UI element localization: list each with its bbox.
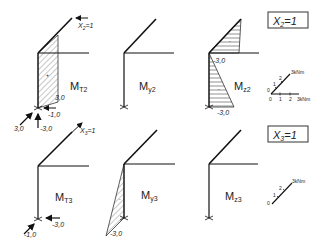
svg-text:1: 1 [279, 96, 282, 102]
moment-value: -3,0 [213, 57, 225, 64]
svg-text:1: 1 [273, 81, 276, 87]
applied-load-label: X2=1 [77, 22, 94, 31]
load-case-label: X2=1 [272, 15, 297, 28]
load-case-box-X3: X3=1 [268, 126, 308, 142]
svg-text:0: 0 [267, 200, 270, 206]
scale-legend-2: 3kNm 0 1 2 [267, 178, 305, 206]
load-case-label: X3=1 [272, 129, 297, 142]
moment-diagram-canvas: X2=1 + 3,0 MT2 -1,0 3,0 -3,0 My2 - - -3,… [0, 0, 324, 248]
svg-text:3kNm: 3kNm [291, 69, 304, 75]
moment-area-My3 [106, 164, 124, 236]
reaction-value: -1,0 [24, 231, 36, 238]
panel-MT2: X2=1 + 3,0 MT2 -1,0 3,0 -3,0 [14, 18, 94, 132]
reaction-value: -1,0 [48, 111, 60, 118]
applied-load-label: X3=1 [79, 127, 96, 136]
panel-label-My3: My3 [141, 189, 158, 203]
moment-value: -3,0 [110, 230, 122, 237]
svg-text:3kNm: 3kNm [297, 96, 310, 102]
moment-value: -3,0 [217, 109, 229, 116]
panel-Mz3: Mz3 [205, 130, 258, 220]
reaction-value: -3,0 [52, 221, 64, 228]
panel-label-MT2: MT2 [70, 80, 87, 93]
sign-mark: + [46, 72, 49, 78]
panel-label-Mz2: Mz2 [234, 80, 251, 93]
svg-text:2: 2 [289, 96, 292, 102]
panel-MT3: X3=1 MT3 -3,0 -1,0 [24, 123, 96, 238]
panel-label-Mz3: Mz3 [225, 190, 242, 203]
svg-text:0: 0 [269, 96, 272, 102]
svg-text:1: 1 [273, 192, 276, 198]
panel-My2: My2 [120, 19, 174, 109]
reaction-arrow-icon [20, 113, 32, 125]
svg-text:0: 0 [267, 87, 270, 93]
reaction-value: -3,0 [40, 125, 52, 132]
scale-legend-1: 3kNm 0 1 2 0 1 2 3kNm [267, 69, 310, 102]
svg-text:2: 2 [279, 185, 282, 191]
panel-label-MT3: MT3 [55, 191, 72, 204]
panel-My3: - -3,0 My3 [106, 130, 175, 237]
load-case-box-X2: X2=1 [268, 12, 308, 28]
panel-label-My2: My2 [139, 80, 156, 94]
reaction-value: 3,0 [14, 125, 24, 132]
svg-text:2: 2 [279, 75, 282, 81]
moment-value: 3,0 [55, 94, 65, 101]
svg-text:3kNm: 3kNm [292, 178, 305, 184]
panel-Mz2: - - -3,0 -3,0 Mz2 [205, 19, 259, 116]
